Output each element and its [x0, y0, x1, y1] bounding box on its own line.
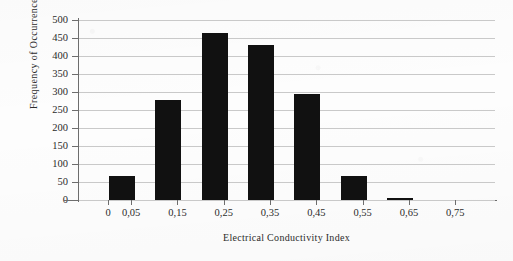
gridline — [78, 200, 495, 201]
x-axis-title: Electrical Conductivity Index — [78, 232, 495, 243]
x-axis-tick-mark — [108, 200, 109, 205]
y-axis-tick-label: 250 — [28, 105, 68, 115]
y-axis-tick-label: 450 — [28, 33, 68, 43]
gridline — [78, 38, 495, 39]
y-axis-tick-mark — [72, 56, 79, 57]
y-axis-tick-mark — [72, 74, 79, 75]
y-axis-tick-mark — [72, 38, 79, 39]
y-axis-tick-mark — [72, 128, 79, 129]
y-axis-tick-label: 400 — [28, 51, 68, 61]
y-axis-tick-mark — [72, 110, 79, 111]
x-axis-tick-mark — [177, 200, 178, 205]
x-axis-tick-label: 0,15 — [154, 207, 200, 218]
gridline — [78, 74, 495, 75]
bar — [155, 100, 181, 200]
x-axis-tick-mark — [131, 200, 132, 205]
y-axis-tick-mark — [72, 92, 79, 93]
bar — [248, 45, 274, 200]
bar — [202, 33, 228, 200]
histogram-figure: Frequency of Occurrence 5004504003503002… — [0, 0, 513, 261]
gridline — [78, 146, 495, 147]
x-axis-tick-mark — [270, 200, 271, 205]
x-axis-tick-label: 0,05 — [108, 207, 154, 218]
y-axis-tick-label: 50 — [28, 177, 68, 187]
bar — [294, 94, 320, 200]
y-axis-tick-label: 100 — [28, 159, 68, 169]
x-axis-tick-label: 0,35 — [247, 207, 293, 218]
plot-area — [78, 20, 495, 200]
y-axis-tick-label: 200 — [28, 123, 68, 133]
x-axis-tick-label: 0,55 — [340, 207, 386, 218]
gridline — [78, 56, 495, 57]
gridline — [78, 128, 495, 129]
y-axis-tick-label: 350 — [28, 69, 68, 79]
y-axis-tick-label: 300 — [28, 87, 68, 97]
x-axis-tick-mark — [455, 200, 456, 205]
x-axis-tick-label: 0,45 — [293, 207, 339, 218]
x-axis-tick-mark — [316, 200, 317, 205]
y-axis-tick-mark — [72, 182, 79, 183]
y-axis-tick-mark — [72, 200, 79, 201]
y-axis-tick-labels: 500450400350300250200150100500 — [24, 20, 68, 200]
x-axis-tick-mark — [363, 200, 364, 205]
y-axis-tick-mark — [72, 164, 79, 165]
gridline — [78, 164, 495, 165]
gridline — [78, 20, 495, 21]
y-axis-tick-label: 150 — [28, 141, 68, 151]
y-axis-tick-mark — [72, 146, 79, 147]
gridline — [78, 110, 495, 111]
y-axis-tick-mark — [72, 20, 79, 21]
x-axis-tick-label: 0,75 — [432, 207, 478, 218]
bar — [341, 176, 367, 200]
bar — [109, 176, 135, 200]
x-axis-tick-label: 0,25 — [201, 207, 247, 218]
x-axis-tick-mark — [224, 200, 225, 205]
y-axis-tick-label: 500 — [28, 15, 68, 25]
x-axis-tick-mark — [409, 200, 410, 205]
y-axis-tick-label: 0 — [28, 195, 68, 205]
x-axis-tick-label: 0,65 — [386, 207, 432, 218]
gridline — [78, 92, 495, 93]
gridline — [78, 182, 495, 183]
